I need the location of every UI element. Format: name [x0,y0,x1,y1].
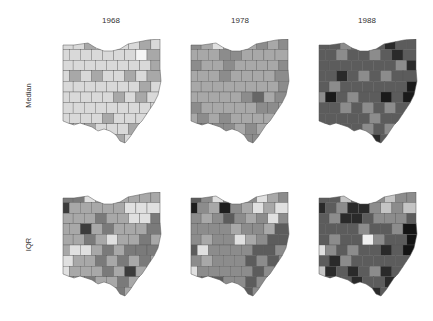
county-cell [91,50,102,61]
county-cell [246,60,257,71]
county-cell [106,277,117,288]
county-cell [396,81,407,92]
county-cell [385,256,396,267]
county-cell [106,234,117,245]
county-cell [136,92,147,103]
county-cell [329,256,340,267]
county-cell [106,256,117,267]
map-median-1978 [190,39,290,145]
county-cell [190,124,201,135]
county-cell [136,266,147,277]
county-cell [62,39,73,50]
county-cell [351,103,362,114]
county-cell [69,245,80,256]
county-cell [246,124,257,135]
county-cell [370,245,381,256]
county-cell [95,81,106,92]
county-cell [318,287,325,298]
county-cell [253,266,264,277]
county-cell [69,50,80,61]
county-cell [136,203,147,214]
county-cell [125,203,136,214]
county-cell [103,287,114,298]
county-cell [359,266,370,277]
county-cell [91,134,102,145]
county-cell [392,266,403,277]
county-cell [381,113,392,124]
county-cell [95,60,106,71]
county-cell [325,266,336,277]
county-cell [374,81,385,92]
map-median-1968 [62,39,162,145]
county-cell [151,103,162,114]
county-cell [347,224,358,235]
county-cell [208,71,219,82]
county-cell [253,134,264,145]
county-cell [219,224,230,235]
county-cell [329,213,340,224]
county-cell [264,245,275,256]
county-cell [242,113,253,124]
county-cell [125,134,136,145]
county-cell [80,134,91,145]
county-cell [219,245,230,256]
county-cell [318,213,329,224]
county-cell [136,71,147,82]
county-cell [208,92,219,103]
county-cell [340,277,351,288]
county-cell [125,224,136,235]
county-cell [118,81,129,92]
county-cell [80,113,91,124]
county-cell [91,266,102,277]
county-cell [91,71,102,82]
county-cell [114,203,125,214]
county-cell [234,234,245,245]
county-cell [246,192,257,203]
county-cell [190,287,197,298]
county-cell [147,287,162,298]
county-cell [147,224,162,235]
county-cell [257,39,268,50]
county-cell [219,134,230,145]
county-cell [370,50,381,61]
county-cell [151,213,162,224]
county-cell [95,39,106,50]
map-iqr-1968 [62,192,162,298]
county-cell [268,103,279,114]
county-cell [268,124,279,135]
county-cell [114,113,125,124]
county-cell [264,224,275,235]
county-cell [95,192,106,203]
county-cell [151,124,162,135]
county-cell [318,39,329,50]
county-cell [351,213,362,224]
county-cell [106,213,117,224]
county-cell [403,113,418,124]
county-cell [208,134,219,145]
county-cell [125,113,136,124]
county-cell [392,113,403,124]
county-cell [279,39,290,50]
county-cell [103,224,114,235]
county-cell [223,192,234,203]
county-cell [362,124,373,135]
row-label-median: Median [24,76,33,116]
county-cell [403,266,418,277]
county-cell [84,103,95,114]
county-cell [223,256,234,267]
county-cell [351,81,362,92]
county-cell [231,71,242,82]
county-cell [396,277,407,288]
county-cell [223,81,234,92]
county-cell [257,213,268,224]
county-cell [106,39,117,50]
county-cell [392,203,403,214]
county-cell [264,92,275,103]
county-cell [80,50,91,61]
county-cell [253,224,264,235]
county-cell [385,213,396,224]
county-cell [325,92,336,103]
county-cell [385,60,396,71]
county-cell [396,256,407,267]
county-cell [370,266,381,277]
